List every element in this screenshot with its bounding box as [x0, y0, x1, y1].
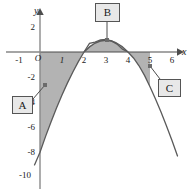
x-tick-label-2: 2 — [76, 55, 92, 65]
y-tick-label-neg8: -8 — [15, 147, 35, 157]
y-tick-label-2: 2 — [15, 22, 35, 32]
origin-label: O — [31, 53, 45, 63]
y-axis-label: y — [34, 5, 38, 16]
callout-box-b[interactable]: B — [95, 3, 120, 22]
y-tick-label-neg6: -6 — [15, 122, 35, 132]
figure-canvas: y x O -1 1 2 3 4 5 6 2 -2 -4 -6 -8 -10 A… — [0, 0, 191, 195]
shaded-region-a-fill — [40, 52, 84, 152]
x-tick-label-3: 3 — [98, 55, 114, 65]
y-tick-label-neg2: -2 — [15, 72, 35, 82]
callout-box-a[interactable]: A — [12, 96, 33, 114]
callout-box-c[interactable]: C — [158, 79, 181, 97]
x-tick-label-neg1: -1 — [11, 55, 27, 65]
x-tick-label-6: 6 — [164, 55, 180, 65]
x-tick-label-1: 1 — [54, 55, 70, 65]
x-axis-label: x — [182, 46, 186, 57]
callout-b-anchor — [105, 38, 109, 42]
x-tick-label-4: 4 — [120, 55, 136, 65]
callout-a-anchor — [43, 83, 47, 87]
y-tick-label-neg10: -10 — [11, 170, 31, 180]
x-tick-label-5: 5 — [142, 55, 158, 65]
